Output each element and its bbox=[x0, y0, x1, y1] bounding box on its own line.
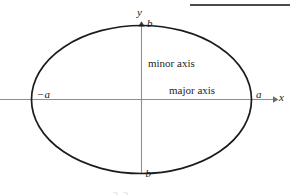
y-axis-label: y bbox=[137, 7, 142, 18]
major-axis-label: major axis bbox=[169, 85, 215, 96]
ellipse-figure: y x b −b a −a minor axis major axis 2 2 bbox=[0, 0, 290, 195]
vertex-label-negative-a: −a bbox=[37, 89, 50, 100]
minor-axis-label: minor axis bbox=[148, 58, 195, 69]
vertex-label-negative-b: −b bbox=[138, 168, 151, 179]
cutoff-equation-text: 2 2 bbox=[112, 189, 192, 195]
vertex-label-a: a bbox=[256, 89, 262, 100]
x-axis-arrow-icon bbox=[273, 96, 279, 103]
vertex-label-b: b bbox=[147, 18, 153, 29]
x-axis-label: x bbox=[279, 92, 284, 103]
